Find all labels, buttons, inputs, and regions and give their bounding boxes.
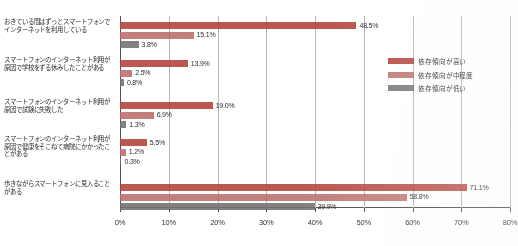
bar-row: 0.3% <box>120 158 510 165</box>
bar-row: 3.8% <box>120 41 510 48</box>
bar <box>120 121 126 128</box>
bar <box>120 158 121 165</box>
category-label-2: スマートフォンのインターネット利用が原因で試験に失敗した <box>4 98 116 113</box>
tick-label-20: 20% <box>210 218 224 227</box>
category-label-0: おきている間はずっとスマートフォンでインターネットを利用している <box>4 18 116 33</box>
legend-label-high: 依存傾向が高い <box>418 56 466 66</box>
bar-value-label: 48.5% <box>359 22 378 29</box>
bar-value-label: 19.0% <box>216 102 235 109</box>
legend-item-medium: 依存傾向が中程度 <box>388 70 473 80</box>
bar-row: 58.8% <box>120 194 510 201</box>
bar <box>120 102 213 109</box>
tick-label-40: 40% <box>308 218 322 227</box>
category-label-1: スマートフォンのインターネット利用が原因で学校をずる休みしたことがある <box>4 56 116 71</box>
bar-value-label: 5.5% <box>150 139 165 146</box>
legend: 依存傾向が高い 依存傾向が中程度 依存傾向が低い <box>388 56 473 93</box>
legend-item-high: 依存傾向が高い <box>388 56 473 66</box>
bar-chart: おきている間はずっとスマートフォンでインターネットを利用している スマートフォン… <box>0 0 518 246</box>
bar-value-label: 6.9% <box>157 111 172 118</box>
bar-value-label: 58.8% <box>410 193 429 200</box>
bar <box>120 139 147 146</box>
bar-value-label: 15.1% <box>197 31 216 38</box>
legend-item-low: 依存傾向が低い <box>388 83 473 93</box>
tick-80 <box>510 208 511 212</box>
category-label-3: スマートフォンのインターネット利用が原因で健康をそこねて病院にかかったことがある <box>4 135 116 158</box>
bar-value-label: 39.9% <box>318 203 337 210</box>
bar <box>120 184 467 191</box>
bar-row: 5.5% <box>120 139 510 146</box>
bar <box>120 203 315 210</box>
bar-value-label: 13.9% <box>191 60 210 67</box>
bar <box>120 22 356 29</box>
bar-row: 6.9% <box>120 112 510 119</box>
category-label-4: 歩きながらスマートフォンに見入ることがある <box>4 180 116 195</box>
legend-swatch-high <box>388 58 414 64</box>
bar <box>120 60 188 67</box>
bar <box>120 79 124 86</box>
bar <box>120 32 194 39</box>
tick-label-80: 80% <box>503 218 517 227</box>
bar-value-label: 2.5% <box>135 69 150 76</box>
bar <box>120 41 139 48</box>
bar-value-label: 1.3% <box>129 121 144 128</box>
bar-row: 39.9% <box>120 203 510 210</box>
bar-value-label: 3.8% <box>142 41 157 48</box>
tick-label-0: 0% <box>115 218 125 227</box>
tick-label-10: 10% <box>162 218 176 227</box>
bar-row: 48.5% <box>120 22 510 29</box>
bar <box>120 149 126 156</box>
legend-swatch-medium <box>388 72 414 78</box>
tick-label-60: 60% <box>405 218 419 227</box>
bar-row: 1.2% <box>120 149 510 156</box>
bar-row: 71.1% <box>120 184 510 191</box>
bar <box>120 112 154 119</box>
tick-label-70: 70% <box>454 218 468 227</box>
legend-label-low: 依存傾向が低い <box>418 83 466 93</box>
bar-value-label: 71.1% <box>470 184 489 191</box>
tick-label-30: 30% <box>259 218 273 227</box>
tick-label-50: 50% <box>357 218 371 227</box>
bar-value-label: 1.2% <box>129 148 144 155</box>
legend-label-medium: 依存傾向が中程度 <box>418 70 473 80</box>
gridline-80 <box>510 16 511 208</box>
bar <box>120 70 132 77</box>
bar <box>120 194 407 201</box>
bar-value-label: 0.8% <box>127 79 142 86</box>
bar-row: 19.0% <box>120 102 510 109</box>
bar-row: 15.1% <box>120 32 510 39</box>
plot-area: 0%10%20%30%40%50%60%70%80% 48.5%15.1%3.8… <box>120 16 510 208</box>
bar-value-label: 0.3% <box>124 158 139 165</box>
bar-row: 1.3% <box>120 121 510 128</box>
legend-swatch-low <box>388 85 414 91</box>
